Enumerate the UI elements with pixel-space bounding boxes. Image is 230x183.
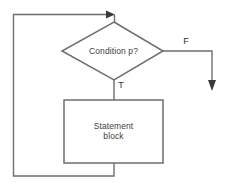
false-branch-connector [163, 51, 212, 82]
false-branch-label: F [180, 36, 192, 46]
exit-arrowhead-icon [208, 80, 216, 91]
true-branch-label: T [115, 80, 127, 90]
flowchart-canvas [0, 0, 230, 183]
flowchart-diagram: Condition p? Statement block T F [0, 0, 230, 183]
condition-node-label: Condition p? [64, 46, 163, 56]
statement-node-label: Statement block [64, 121, 163, 141]
entry-arrowhead-icon [106, 11, 115, 19]
